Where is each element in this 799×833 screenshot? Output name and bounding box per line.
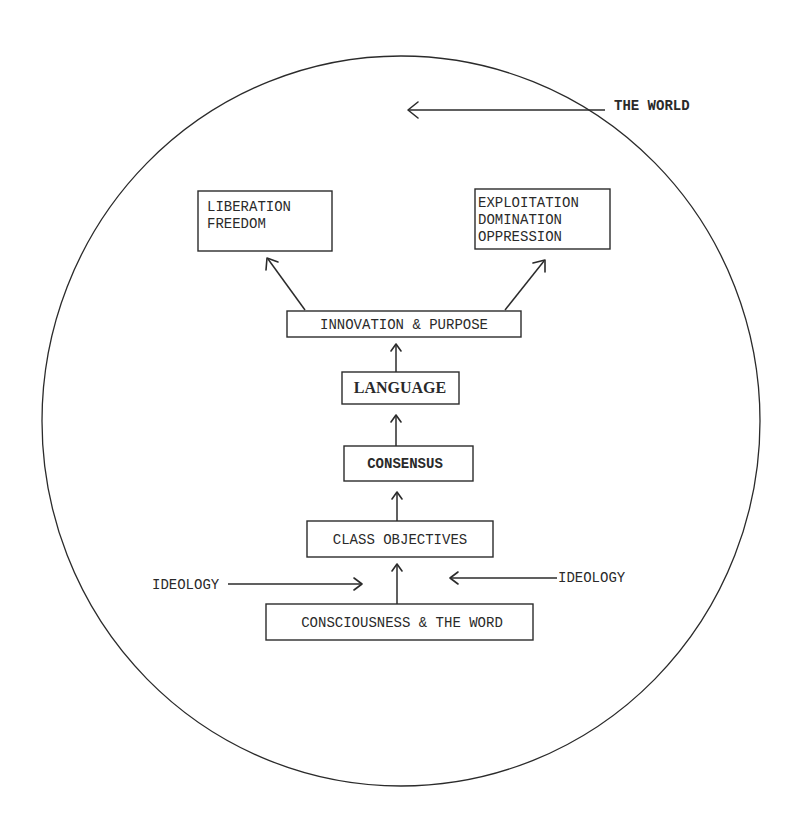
outcome-box-liberation: LIBERATION FREEDOM bbox=[198, 191, 332, 251]
influence-ideology-right: IDEOLOGY bbox=[450, 570, 626, 586]
world-label: THE WORLD bbox=[614, 98, 690, 114]
stage-innovation-purpose: INNOVATION & PURPOSE bbox=[287, 311, 521, 337]
influence-ideology-left: IDEOLOGY bbox=[152, 577, 362, 593]
stage-consciousness-word: CONSCIOUSNESS & THE WORD bbox=[266, 604, 533, 640]
arrow-consensus-to-language bbox=[391, 415, 401, 446]
outcome-left-line-1: LIBERATION bbox=[207, 199, 291, 215]
arrow-to-exploitation bbox=[505, 260, 545, 310]
consciousness-label: CONSCIOUSNESS & THE WORD bbox=[301, 615, 503, 631]
arrow-language-to-innovation bbox=[391, 344, 401, 372]
arrow-class-to-consensus bbox=[392, 492, 402, 521]
stage-consensus: CONSENSUS bbox=[344, 446, 473, 481]
arrow-consciousness-to-class bbox=[392, 564, 402, 604]
class-objectives-label: CLASS OBJECTIVES bbox=[333, 532, 467, 548]
stage-language: LANGUAGE bbox=[342, 372, 459, 404]
outcome-right-line-3: OPPRESSION bbox=[478, 229, 562, 245]
outcome-box-exploitation: EXPLOITATION DOMINATION OPPRESSION bbox=[475, 189, 610, 249]
ideology-left-label: IDEOLOGY bbox=[152, 577, 220, 593]
diagram-canvas: THE WORLD LIBERATION FREEDOM EXPLOITATIO… bbox=[0, 0, 799, 833]
arrow-to-liberation bbox=[266, 258, 305, 310]
world-pointer: THE WORLD bbox=[408, 98, 690, 118]
consensus-label: CONSENSUS bbox=[367, 456, 443, 472]
language-label: LANGUAGE bbox=[354, 379, 446, 396]
ideology-right-label: IDEOLOGY bbox=[558, 570, 626, 586]
outcome-left-line-2: FREEDOM bbox=[207, 216, 266, 232]
outcome-right-line-2: DOMINATION bbox=[478, 212, 562, 228]
innovation-label: INNOVATION & PURPOSE bbox=[320, 317, 488, 333]
stage-class-objectives: CLASS OBJECTIVES bbox=[307, 521, 493, 557]
outcome-right-line-1: EXPLOITATION bbox=[478, 195, 579, 211]
